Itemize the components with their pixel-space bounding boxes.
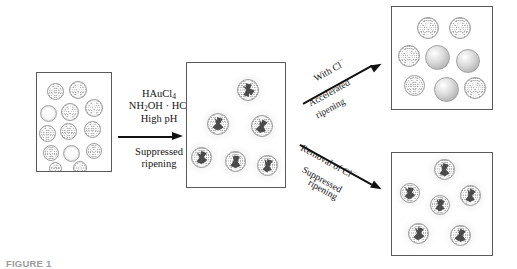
spiked-particles-panel bbox=[186, 62, 286, 188]
seed-textured bbox=[60, 123, 77, 140]
seed-textured bbox=[84, 121, 101, 138]
ripened-textured bbox=[417, 17, 439, 39]
seed-textured bbox=[49, 162, 62, 172]
preserved-spiked-particle bbox=[400, 183, 420, 203]
preserved-spiked-particle bbox=[460, 185, 481, 206]
lower-arrow-head bbox=[370, 181, 383, 193]
suppressed-ripening-panel bbox=[391, 152, 493, 256]
seed-textured bbox=[47, 83, 64, 100]
ripened-smooth bbox=[456, 49, 480, 73]
accelerated-ripening-stage bbox=[392, 7, 492, 109]
seed-textured bbox=[43, 145, 59, 161]
spiked-particles-stage bbox=[187, 63, 285, 187]
seed-particles-panel bbox=[36, 72, 112, 172]
spiked-spiked-particle bbox=[257, 155, 278, 176]
ripened-smooth bbox=[425, 45, 450, 70]
seed-textured bbox=[73, 161, 87, 172]
ripened-smooth bbox=[434, 77, 459, 102]
main-arrow-head bbox=[172, 132, 183, 140]
ripened-textured bbox=[464, 77, 486, 99]
ripened-textured bbox=[398, 45, 420, 67]
ripened-textured bbox=[449, 17, 471, 39]
seed-textured bbox=[69, 81, 87, 99]
spiked-spiked-particle bbox=[191, 147, 212, 168]
figure-scheme: HAuCl4 NH2OH · HCl High pH Suppressed ri… bbox=[0, 0, 517, 269]
spiked-spiked-particle bbox=[251, 115, 273, 137]
spiked-spiked-particle bbox=[225, 151, 246, 172]
spiked-spiked-particle bbox=[207, 113, 229, 135]
accelerated-ripening-panel bbox=[391, 6, 493, 110]
seed-particles-stage bbox=[37, 73, 111, 171]
preserved-spiked-particle bbox=[434, 159, 455, 180]
figure-caption: FIGURE 1 bbox=[6, 258, 51, 269]
seed-ring bbox=[40, 105, 57, 122]
seed-textured bbox=[61, 103, 79, 121]
suppressed-ripening-stage bbox=[392, 153, 492, 255]
ripened-textured bbox=[404, 75, 425, 96]
spiked-spiked-particle bbox=[237, 79, 259, 101]
preserved-spiked-particle bbox=[450, 225, 471, 246]
upper-arrow-head bbox=[370, 60, 383, 72]
main-arrow-shaft bbox=[118, 136, 174, 138]
seed-textured bbox=[85, 99, 103, 117]
preserved-spiked-particle bbox=[408, 223, 429, 244]
seed-textured bbox=[86, 143, 102, 159]
seed-textured bbox=[39, 125, 56, 142]
seed-ring bbox=[63, 145, 80, 162]
preserved-spiked-particle bbox=[430, 195, 450, 215]
